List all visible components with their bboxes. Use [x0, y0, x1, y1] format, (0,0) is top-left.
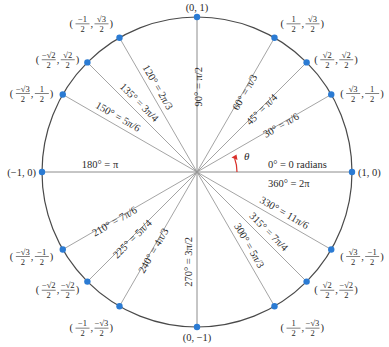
- comma: ,: [302, 322, 305, 333]
- paren: (: [281, 18, 285, 30]
- y-denominator: 2: [310, 24, 314, 34]
- y-denominator: 2: [310, 328, 314, 338]
- angle-label-0: 0° = 0 radians: [268, 159, 327, 170]
- ray-135: [87, 62, 197, 172]
- x-numerator: −1: [78, 318, 87, 328]
- paren: (: [36, 284, 40, 296]
- point-315: [303, 278, 309, 284]
- x-numerator: √2: [323, 50, 332, 60]
- x-denominator: 2: [351, 257, 355, 267]
- y-numerator: −1: [368, 247, 377, 257]
- point-30: [328, 91, 334, 97]
- point-90: [194, 14, 200, 20]
- x-denominator: 2: [47, 60, 51, 70]
- x-denominator: 2: [325, 60, 329, 70]
- paren: (: [281, 322, 285, 334]
- unit-circle-diagram: 0° = 0 radians30° = π/645° = π/460° = π/…: [0, 0, 389, 347]
- point-120: [116, 35, 122, 41]
- x-denominator: 2: [291, 328, 295, 338]
- x-denominator: 2: [351, 94, 355, 104]
- y-numerator: −1: [37, 247, 46, 257]
- paren: ): [354, 54, 358, 66]
- paren: ): [110, 18, 114, 30]
- comma: ,: [302, 18, 305, 29]
- point-45: [303, 59, 309, 65]
- coord-label-135: (−√22,√22): [36, 50, 80, 70]
- point-135: [84, 59, 90, 65]
- x-denominator: 2: [21, 94, 25, 104]
- paren: ): [110, 322, 114, 334]
- x-numerator: −√2: [42, 50, 56, 60]
- point-180: [39, 169, 45, 175]
- x-numerator: √2: [323, 280, 332, 290]
- paren: (: [314, 54, 318, 66]
- paren: (: [70, 18, 74, 30]
- angle-label-90: 90° = π/2: [193, 67, 204, 106]
- x-denominator: 2: [80, 328, 84, 338]
- paren: (: [314, 284, 318, 296]
- x-numerator: −1: [78, 14, 87, 24]
- y-denominator: 2: [370, 94, 374, 104]
- point-240: [116, 303, 122, 309]
- y-denominator: 2: [344, 290, 348, 300]
- x-numerator: −√2: [42, 280, 56, 290]
- y-numerator: 1: [40, 84, 44, 94]
- point-300: [271, 303, 277, 309]
- x-denominator: 2: [21, 257, 25, 267]
- theta-indicator: θ: [232, 150, 251, 172]
- paren: ): [50, 88, 54, 100]
- x-numerator: √3: [349, 84, 358, 94]
- x-numerator: −√3: [16, 84, 30, 94]
- comma: ,: [57, 284, 60, 295]
- paren: ): [321, 322, 325, 334]
- ray-300: [197, 172, 275, 306]
- y-denominator: 2: [99, 24, 103, 34]
- theta-label: θ: [244, 150, 250, 162]
- coord-label-150: (−√32,12): [10, 84, 54, 104]
- y-numerator: −√3: [306, 318, 320, 328]
- y-numerator: √2: [63, 50, 72, 60]
- x-numerator: 1: [291, 318, 295, 328]
- angle-label-30: 30° = π/6: [261, 111, 301, 140]
- paren: ): [50, 251, 54, 263]
- coord-text: (−1, 0): [7, 167, 36, 179]
- y-numerator: −√3: [95, 318, 109, 328]
- angle-label-180: 180° = π: [82, 159, 119, 170]
- coord-label-30: (√32,12): [340, 84, 384, 104]
- y-denominator: 2: [40, 94, 44, 104]
- y-numerator: 1: [370, 84, 374, 94]
- paren: ): [76, 54, 80, 66]
- comma: ,: [361, 251, 364, 262]
- comma: ,: [31, 88, 34, 99]
- paren: (: [340, 88, 344, 100]
- y-denominator: 2: [99, 328, 103, 338]
- paren: ): [76, 284, 80, 296]
- coord-label-120: (−12,√32): [70, 14, 114, 34]
- paren: ): [354, 284, 358, 296]
- y-denominator: 2: [370, 257, 374, 267]
- angle-labels: 0° = 0 radians30° = π/645° = π/460° = π/…: [82, 63, 327, 287]
- y-numerator: −√2: [61, 280, 75, 290]
- coord-text: (0, 1): [186, 2, 209, 14]
- paren: (: [70, 322, 74, 334]
- angle-label-270: 270° = 3π/2: [183, 237, 194, 287]
- y-numerator: √2: [342, 50, 351, 60]
- comma: ,: [335, 54, 338, 65]
- coord-label-90: (0, 1): [186, 2, 209, 14]
- coord-label-270: (0, −1): [183, 332, 212, 344]
- point-0: [349, 169, 355, 175]
- comma: ,: [91, 18, 94, 29]
- comma: ,: [361, 88, 364, 99]
- comma: ,: [57, 54, 60, 65]
- point-270: [194, 324, 200, 330]
- paren: ): [380, 88, 384, 100]
- x-denominator: 2: [291, 24, 295, 34]
- ray-120: [120, 38, 198, 172]
- coord-label-210: (−√32,−12): [10, 247, 54, 267]
- coord-label-45: (√22,√22): [314, 50, 358, 70]
- y-numerator: −√2: [339, 280, 353, 290]
- coord-label-315: (√22,−√22): [314, 280, 358, 300]
- x-numerator: √3: [349, 247, 358, 257]
- comma: ,: [31, 251, 34, 262]
- angle-label-60: 60° = π/3: [230, 72, 259, 112]
